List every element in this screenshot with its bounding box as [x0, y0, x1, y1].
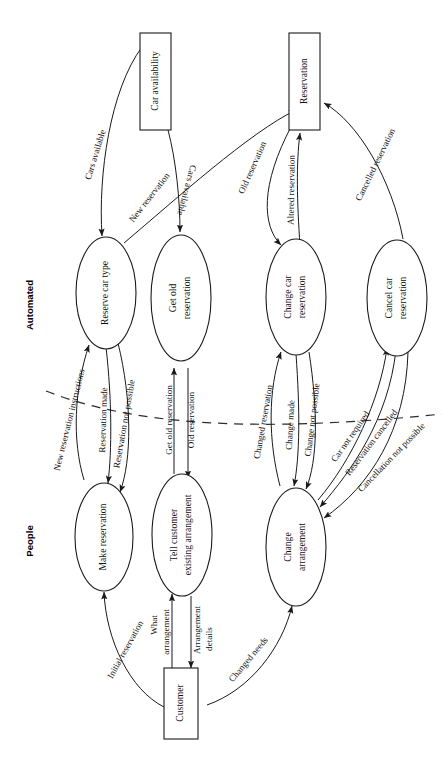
process-get-old-reservation-label-l2: reservation: [181, 276, 192, 319]
process-tell-customer-existing-arrangement[interactable]: Tell customer existing arrangement: [152, 474, 212, 596]
edge-label-arrangement-details-l1: Arrangement: [192, 606, 202, 654]
zone-label-automated-text: Automated: [24, 280, 35, 330]
process-cancel-car-reservation[interactable]: Cancel car reservation: [367, 240, 427, 356]
external-customer-label: Customer: [174, 684, 185, 722]
edge-label-what-arrangement-l1: What: [149, 615, 159, 635]
process-reserve-car-type-label: Reserve car type: [99, 261, 110, 325]
process-change-car-reservation-label-l1: Change car: [282, 274, 293, 318]
process-tell-customer-label-l1: Tell customer: [168, 508, 179, 561]
process-cancel-car-reservation-label-l2: reservation: [397, 276, 408, 319]
store-car-availability-label: Car availability: [149, 51, 160, 111]
zone-label-people: People: [24, 525, 35, 556]
process-reserve-car-type[interactable]: Reserve car type: [76, 237, 136, 349]
zone-label-people-text: People: [24, 525, 35, 556]
process-get-old-reservation[interactable]: Get old reservation: [151, 235, 211, 361]
process-get-old-reservation-label-l1: Get old: [167, 284, 178, 313]
process-change-car-reservation[interactable]: Change car reservation: [266, 239, 326, 355]
external-customer[interactable]: Customer: [164, 668, 198, 739]
process-change-arrangement[interactable]: Change arrangement: [266, 488, 326, 606]
process-tell-customer-label-l2: existing arrangement: [182, 494, 193, 575]
edge-label-altered-reservation: Altered reservation: [285, 154, 296, 225]
edge-label-get-old-reservation: Get old reservation: [164, 385, 174, 455]
background: [0, 0, 442, 762]
edge-label-old-reservation-2: Old reservation: [186, 391, 196, 448]
edge-label-what-arrangement-l2: arrangement: [161, 609, 171, 655]
store-reservation[interactable]: Reservation: [289, 33, 320, 130]
process-change-arrangement-label-l1: Change: [282, 532, 293, 561]
process-change-car-reservation-label-l2: reservation: [296, 275, 307, 318]
process-make-reservation[interactable]: Make reservation: [75, 483, 133, 591]
process-change-arrangement-label-l2: arrangement: [296, 523, 307, 571]
zone-label-automated: Automated: [24, 280, 35, 330]
process-make-reservation-label: Make reservation: [97, 503, 108, 570]
diagram-canvas: Automated People Car availabi: [0, 0, 442, 762]
store-car-availability[interactable]: Car availability: [140, 33, 171, 130]
store-reservation-label: Reservation: [298, 58, 309, 104]
edge-label-arrangement-details-l2: details: [204, 627, 214, 651]
process-cancel-car-reservation-label-l1: Cancel car: [383, 277, 394, 319]
